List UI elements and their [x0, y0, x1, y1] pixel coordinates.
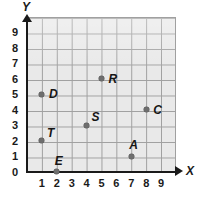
x-tick-2: 2: [50, 178, 64, 189]
y-tick-7: 7: [8, 58, 22, 69]
y-axis-label: Y: [22, 1, 30, 13]
point-marker-A: [129, 154, 134, 159]
y-tick-6: 6: [8, 74, 22, 85]
point-marker-E: [54, 169, 59, 174]
x-axis-arrow-icon: [175, 166, 183, 176]
point-label-C: C: [153, 104, 162, 116]
x-axis-label: X: [186, 165, 194, 177]
x-tick-7: 7: [124, 178, 138, 189]
x-tick-6: 6: [109, 178, 123, 189]
x-tick-8: 8: [139, 178, 153, 189]
point-label-E: E: [55, 155, 63, 167]
y-axis-arrow-icon: [22, 14, 32, 22]
y-tick-3: 3: [8, 120, 22, 131]
point-marker-D: [39, 92, 44, 97]
point-label-T: T: [47, 127, 54, 139]
y-axis-line: [26, 21, 28, 172]
point-marker-R: [99, 76, 104, 81]
point-label-S: S: [92, 111, 100, 123]
y-tick-5: 5: [8, 89, 22, 100]
y-tick-1: 1: [8, 151, 22, 162]
y-tick-9: 9: [8, 27, 22, 38]
x-tick-9: 9: [154, 178, 168, 189]
x-axis-line: [26, 171, 176, 173]
point-label-D: D: [49, 88, 58, 100]
point-marker-C: [144, 107, 149, 112]
x-tick-4: 4: [80, 178, 94, 189]
point-marker-S: [84, 123, 89, 128]
y-tick-0: 0: [8, 167, 22, 178]
y-tick-4: 4: [8, 105, 22, 116]
x-tick-3: 3: [65, 178, 79, 189]
point-label-A: A: [129, 139, 138, 151]
coordinate-plane-figure: X Y 0123456789 123456789 DTESRAC: [0, 0, 200, 204]
x-tick-1: 1: [35, 178, 49, 189]
x-tick-5: 5: [95, 178, 109, 189]
y-tick-8: 8: [8, 43, 22, 54]
y-tick-2: 2: [8, 136, 22, 147]
point-label-R: R: [109, 73, 118, 85]
